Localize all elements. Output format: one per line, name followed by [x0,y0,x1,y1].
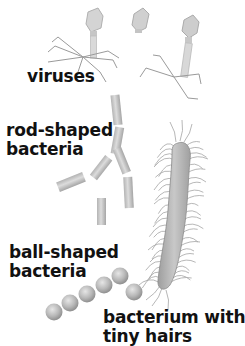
hair-strand [180,120,183,141]
virus-2 [132,8,149,33]
hair-strand [178,254,194,259]
hair-strand [179,249,194,252]
label-viruses: viruses [27,67,95,86]
label-rod-line2: bacteria [6,140,113,159]
hairy-bacterium [138,120,208,310]
hair-strand [182,224,203,229]
hair-strand [174,271,189,274]
hair-strand [180,242,200,247]
hair-strand [138,280,159,286]
label-viruses-text: viruses [27,66,95,86]
hair-strand [175,266,189,271]
label-ball-shaped-bacteria: ball-shaped bacteria [9,243,119,281]
label-rod-line1: rod-shaped [6,121,113,140]
hair-strand [170,122,176,142]
hair-strand [184,124,192,142]
label-ball-line2: bacteria [9,262,119,281]
virus-3 [140,15,201,99]
label-rod-shaped-bacteria: rod-shaped bacteria [6,121,113,159]
rod-shaped-bacteria [56,95,134,225]
label-bacterium-with-hairs: bacterium with tiny hairs [103,308,245,346]
hair-strand [177,260,196,263]
label-ball-line1: ball-shaped [9,243,119,262]
label-hairs-line1: bacterium with [103,308,245,327]
hair-strand [186,142,200,147]
label-hairs-line2: tiny hairs [103,327,245,346]
